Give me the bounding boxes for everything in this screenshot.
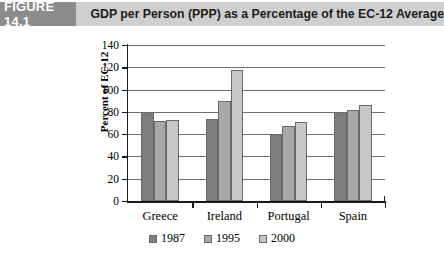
legend-swatch-icon (204, 235, 212, 243)
bar-ireland-2000 (231, 70, 244, 201)
legend-item-1987: 1987 (149, 231, 185, 246)
chart-plot-wrapper: Percent of EC-12 020406080100120140 Gree… (0, 28, 444, 256)
bar-ireland-1995 (218, 101, 231, 201)
bar-portugal-1987 (270, 134, 283, 201)
legend-swatch-icon (149, 235, 157, 243)
bar-greece-1987 (141, 112, 154, 201)
bar-spain-1987 (334, 112, 347, 201)
legend-label: 1987 (161, 231, 185, 246)
bar-portugal-1995 (282, 126, 295, 201)
legend-item-2000: 2000 (259, 231, 295, 246)
y-axis-tick-label: 60 (108, 128, 120, 140)
x-axis-tick (257, 202, 258, 208)
x-axis-tick (385, 202, 386, 208)
x-axis-label-greece: Greece (142, 209, 177, 224)
chart-legend: 198719952000 (0, 231, 444, 246)
figure-title: GDP per Person (PPP) as a Percentage of … (76, 7, 444, 21)
x-axis-label-portugal: Portugal (267, 209, 309, 224)
y-axis-tick-label: 40 (108, 150, 120, 162)
x-axis-tick (321, 202, 322, 208)
figure-header-banner: FIGURE 14.1 GDP per Person (PPP) as a Pe… (0, 2, 444, 26)
figure-number-tab: FIGURE 14.1 (0, 2, 76, 26)
bar-ireland-1987 (206, 119, 219, 201)
bar-spain-1995 (347, 110, 360, 201)
y-axis-tick-label: 100 (102, 84, 119, 96)
legend-item-1995: 1995 (204, 231, 240, 246)
figure-container: FIGURE 14.1 GDP per Person (PPP) as a Pe… (0, 0, 444, 256)
y-axis-tick (122, 201, 128, 202)
bar-greece-2000 (166, 120, 179, 201)
plot-area: 020406080100120140 (128, 45, 385, 201)
legend-label: 2000 (271, 231, 295, 246)
x-axis-label-spain: Spain (339, 209, 367, 224)
y-axis-tick-label: 80 (108, 106, 120, 118)
legend-swatch-icon (259, 235, 267, 243)
bar-spain-2000 (359, 105, 372, 201)
bar-portugal-2000 (295, 122, 308, 201)
x-axis-label-ireland: Ireland (207, 209, 242, 224)
legend-label: 1995 (216, 231, 240, 246)
y-axis-tick-label: 0 (113, 195, 119, 207)
y-axis-tick-label: 20 (108, 173, 120, 185)
x-axis-tick (192, 202, 193, 208)
y-axis-tick-label: 120 (102, 61, 119, 73)
y-axis-tick-label: 140 (102, 39, 119, 51)
bars-layer (128, 45, 385, 201)
bar-greece-1995 (154, 121, 167, 201)
